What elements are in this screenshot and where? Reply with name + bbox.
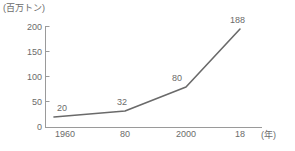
x-tick-label-1960: 1960 [43, 129, 87, 139]
line-chart: (百万トン) 200 150 100 50 0 1960 80 2000 18 … [0, 0, 295, 151]
y-tick-label-200: 200 [16, 23, 42, 32]
data-point-label-1960: 20 [57, 104, 67, 113]
x-tick-label-18: 18 [218, 129, 262, 139]
x-tick-label-80: 80 [103, 129, 147, 139]
data-point-label-2000: 80 [172, 74, 182, 83]
data-point-label-2018: 188 [230, 16, 245, 25]
y-tick-label-100: 100 [16, 73, 42, 82]
y-axis-tick-labels: 200 150 100 50 0 [12, 0, 42, 151]
x-axis-unit-label: (年) [261, 128, 276, 141]
data-line-series-1 [54, 29, 240, 117]
y-tick-label-0: 0 [16, 123, 42, 132]
y-tick-label-150: 150 [16, 48, 42, 57]
data-point-label-1980: 32 [117, 98, 127, 107]
y-tick-label-50: 50 [16, 98, 42, 107]
x-tick-label-2000: 2000 [164, 129, 208, 139]
